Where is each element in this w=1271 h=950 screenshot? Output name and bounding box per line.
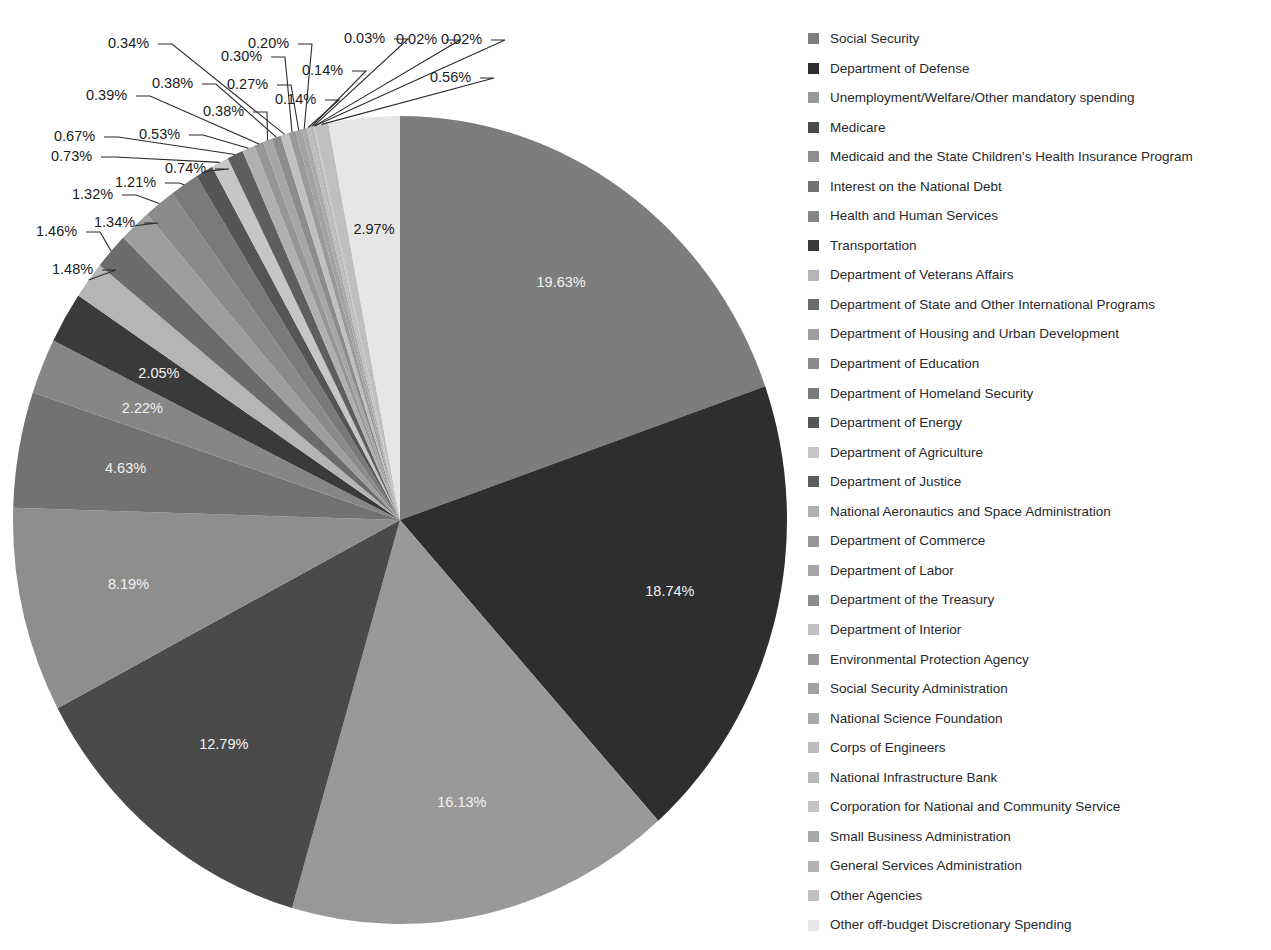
- legend-color-swatch-icon: [808, 506, 819, 517]
- callout-leader-line: [86, 232, 111, 251]
- legend-item-label: Department of Interior: [830, 623, 961, 637]
- callout-value-label: 1.46%: [36, 223, 77, 239]
- legend-item[interactable]: Social Security Administration: [808, 674, 1271, 704]
- legend-color-swatch-icon: [808, 654, 819, 665]
- legend-color-swatch-icon: [808, 122, 819, 133]
- legend-item-label: National Aeronautics and Space Administr…: [830, 505, 1111, 519]
- callout-value-label: 0.38%: [203, 103, 244, 119]
- callout-value-label: 0.34%: [108, 35, 149, 51]
- legend-item[interactable]: Environmental Protection Agency: [808, 644, 1271, 674]
- legend-item-label: Department of Commerce: [830, 534, 985, 548]
- legend-item-label: Other off-budget Discretionary Spending: [830, 918, 1071, 932]
- legend-color-swatch-icon: [808, 801, 819, 812]
- legend-color-swatch-icon: [808, 831, 819, 842]
- callout-value-label: 0.38%: [152, 75, 193, 91]
- slice-value-label: 16.13%: [437, 794, 486, 810]
- callout-value-label: 0.67%: [54, 128, 95, 144]
- legend-item[interactable]: Department of Housing and Urban Developm…: [808, 319, 1271, 349]
- legend-item-label: Department of the Treasury: [830, 593, 994, 607]
- legend-item-label: Department of Energy: [830, 416, 962, 430]
- legend-color-swatch-icon: [808, 476, 819, 487]
- legend-item-label: Small Business Administration: [830, 830, 1011, 844]
- legend-item[interactable]: Corporation for National and Community S…: [808, 792, 1271, 822]
- legend-color-swatch-icon: [808, 388, 819, 399]
- legend-item[interactable]: Small Business Administration: [808, 822, 1271, 852]
- legend-item-label: Medicaid and the State Children's Health…: [830, 150, 1193, 164]
- legend-color-swatch-icon: [808, 33, 819, 44]
- callout-value-label: 0.39%: [86, 87, 127, 103]
- legend-item[interactable]: Department of Defense: [808, 54, 1271, 84]
- legend-item-label: Environmental Protection Agency: [830, 653, 1029, 667]
- legend-item[interactable]: Department of Justice: [808, 467, 1271, 497]
- legend-item[interactable]: Other Agencies: [808, 881, 1271, 911]
- legend-item-label: General Services Administration: [830, 859, 1022, 873]
- callout-value-label: 0.73%: [51, 148, 92, 164]
- legend-item-label: Unemployment/Welfare/Other mandatory spe…: [830, 91, 1134, 105]
- legend-item[interactable]: General Services Administration: [808, 851, 1271, 881]
- slice-value-label: 8.19%: [108, 576, 149, 592]
- legend-item-label: Corporation for National and Community S…: [830, 800, 1120, 814]
- legend-color-swatch-icon: [808, 92, 819, 103]
- legend-item[interactable]: Department of Commerce: [808, 526, 1271, 556]
- callout-leader-line: [312, 71, 367, 127]
- legend-color-swatch-icon: [808, 742, 819, 753]
- slice-value-label: 2.22%: [122, 400, 163, 416]
- legend-color-swatch-icon: [808, 595, 819, 606]
- legend-item-label: Department of Agriculture: [830, 446, 983, 460]
- legend-item[interactable]: Medicare: [808, 113, 1271, 143]
- callout-value-label: 0.14%: [302, 62, 343, 78]
- legend-color-swatch-icon: [808, 240, 819, 251]
- legend-item[interactable]: Department of Agriculture: [808, 438, 1271, 468]
- legend-item[interactable]: Unemployment/Welfare/Other mandatory spe…: [808, 83, 1271, 113]
- callout-value-label: 0.02%: [396, 31, 437, 47]
- callout-value-label: 0.14%: [275, 91, 316, 107]
- legend-item[interactable]: Other off-budget Discretionary Spending: [808, 910, 1271, 940]
- slice-value-label: 19.63%: [537, 274, 586, 290]
- legend-color-swatch-icon: [808, 683, 819, 694]
- slice-value-label: 4.63%: [105, 460, 146, 476]
- callout-value-label: 0.27%: [227, 76, 268, 92]
- legend-item[interactable]: Department of Homeland Security: [808, 379, 1271, 409]
- legend-item[interactable]: Social Security: [808, 24, 1271, 54]
- callout-leader-line: [298, 44, 312, 129]
- slice-value-label: 2.97%: [353, 221, 394, 237]
- legend-item[interactable]: Health and Human Services: [808, 201, 1271, 231]
- callout-value-label: 0.53%: [139, 126, 180, 142]
- legend-color-swatch-icon: [808, 624, 819, 635]
- legend-item[interactable]: Department of Education: [808, 349, 1271, 379]
- legend-color-swatch-icon: [808, 713, 819, 724]
- legend-item[interactable]: Corps of Engineers: [808, 733, 1271, 763]
- legend-item-label: Corps of Engineers: [830, 741, 946, 755]
- legend-color-swatch-icon: [808, 63, 819, 74]
- legend-item[interactable]: Department of Interior: [808, 615, 1271, 645]
- legend-item-label: Health and Human Services: [830, 209, 998, 223]
- legend-color-swatch-icon: [808, 890, 819, 901]
- pie-chart-svg: 19.63%18.74%16.13%12.79%8.19%4.63%2.22%2…: [0, 0, 800, 950]
- legend-item-label: Social Security: [830, 32, 919, 46]
- legend-item-label: National Infrastructure Bank: [830, 771, 997, 785]
- legend-item[interactable]: National Science Foundation: [808, 704, 1271, 734]
- legend-item[interactable]: Medicaid and the State Children's Health…: [808, 142, 1271, 172]
- legend-item[interactable]: Department of the Treasury: [808, 585, 1271, 615]
- legend-item[interactable]: Interest on the National Debt: [808, 172, 1271, 202]
- legend-item[interactable]: Department of Energy: [808, 408, 1271, 438]
- legend-color-swatch-icon: [808, 417, 819, 428]
- callout-leader-line: [165, 183, 184, 185]
- pie-chart-area: 19.63%18.74%16.13%12.79%8.19%4.63%2.22%2…: [0, 0, 800, 950]
- legend-item-label: Department of Housing and Urban Developm…: [830, 327, 1119, 341]
- legend-color-swatch-icon: [808, 358, 819, 369]
- legend-item[interactable]: National Aeronautics and Space Administr…: [808, 497, 1271, 527]
- legend-item[interactable]: Transportation: [808, 231, 1271, 261]
- legend-color-swatch-icon: [808, 270, 819, 281]
- legend-item[interactable]: Department of State and Other Internatio…: [808, 290, 1271, 320]
- legend-item[interactable]: Department of Veterans Affairs: [808, 260, 1271, 290]
- legend-item[interactable]: Department of Labor: [808, 556, 1271, 586]
- legend-item-label: Transportation: [830, 239, 917, 253]
- legend-color-swatch-icon: [808, 772, 819, 783]
- callout-value-label: 0.74%: [165, 160, 206, 176]
- slice-value-label: 12.79%: [199, 736, 248, 752]
- legend-item[interactable]: National Infrastructure Bank: [808, 763, 1271, 793]
- legend-item-label: Other Agencies: [830, 889, 922, 903]
- callout-leader-line: [189, 135, 248, 148]
- legend-item-label: Medicare: [830, 121, 886, 135]
